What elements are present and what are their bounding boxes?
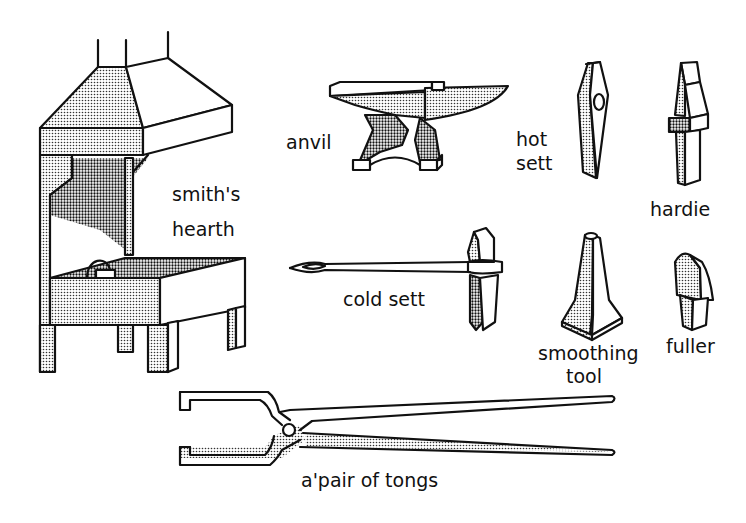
anvil-illustration [330,82,508,170]
label-fuller: fuller [666,335,715,357]
label-anvil: anvil [286,131,332,153]
label-smiths-hearth-line2: hearth [172,218,235,240]
hardie-illustration [669,62,708,185]
blacksmith-tools-diagram: smith's hearth anvil hot sett hardie [0,0,746,523]
tongs-illustration [180,392,615,465]
fuller-illustration [675,254,713,330]
hot-sett-illustration [578,62,608,178]
label-smoothing-tool-line2: tool [566,365,602,387]
cold-sett-illustration [290,228,502,330]
label-tongs: a'pair of tongs [301,469,438,491]
label-smoothing-tool-line1: smoothing [538,342,639,364]
label-hot-sett-line1: hot [516,128,547,150]
label-hot-sett-line2: sett [516,152,553,174]
smoothing-tool-illustration [562,233,622,340]
label-smiths-hearth-line1: smith's [172,183,240,205]
label-hardie: hardie [650,198,710,220]
label-cold-sett: cold sett [343,288,425,310]
